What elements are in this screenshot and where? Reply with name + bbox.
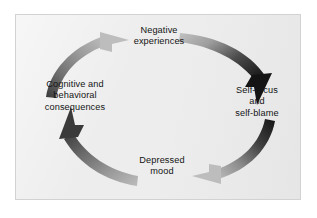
node-label-negative-experiences: Negative experiences [100,25,218,48]
node-label-self-focus: Self-focus and self-blame [214,85,300,119]
figure-root: Negative experiences Self-focus and self… [0,0,317,218]
node-label-depressed-mood: Depressed mood [112,155,212,178]
diagram-panel: Negative experiences Self-focus and self… [15,14,301,200]
node-label-cognitive-consequences: Cognitive and behavioral consequences [20,79,130,113]
